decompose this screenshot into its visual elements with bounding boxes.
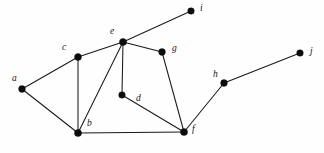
vertices-layer [19, 8, 304, 137]
graph-edge-b-f [78, 132, 184, 133]
graph-edge-a-b [22, 89, 78, 133]
graph-edge-h-j [224, 53, 300, 83]
graph-edge-e-g [123, 42, 162, 52]
graph-vertex-g [159, 49, 166, 56]
graph-edge-e-d [122, 42, 123, 95]
graph-vertex-j [297, 50, 304, 57]
graph-canvas [0, 0, 324, 153]
graph-vertex-i [188, 8, 195, 15]
vertex-label-c: c [62, 43, 66, 53]
graph-edge-d-f [122, 95, 184, 132]
vertex-label-g: g [172, 44, 177, 54]
graph-edge-a-c [22, 57, 78, 89]
vertex-label-d: d [136, 94, 141, 104]
graph-edge-g-f [162, 52, 184, 132]
vertex-label-i: i [200, 4, 203, 14]
vertex-label-a: a [12, 74, 17, 84]
graph-edge-f-h [184, 83, 224, 132]
graph-edge-e-i [123, 11, 191, 42]
graph-edge-e-b [78, 42, 123, 133]
graph-diagram: abcdefghij [0, 0, 324, 153]
edges-layer [22, 11, 300, 133]
vertex-label-j: j [310, 47, 313, 57]
vertex-label-e: e [110, 27, 114, 37]
graph-vertex-e [119, 38, 126, 45]
vertex-label-b: b [87, 119, 92, 129]
graph-vertex-h [221, 80, 228, 87]
graph-vertex-c [75, 54, 82, 61]
vertex-label-f: f [192, 125, 195, 135]
graph-vertex-f [180, 128, 187, 135]
graph-vertex-d [119, 92, 126, 99]
graph-vertex-a [19, 86, 26, 93]
graph-vertex-b [74, 129, 81, 136]
vertex-label-h: h [213, 70, 218, 80]
